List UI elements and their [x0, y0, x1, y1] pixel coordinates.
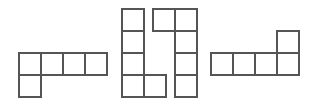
polyomino-cell [255, 53, 277, 75]
shape-4-right-J-pentomino [211, 31, 299, 75]
polyomino-cell [175, 31, 197, 53]
polyomino-cell [175, 75, 197, 97]
polyomino-cell [175, 53, 197, 75]
polyomino-cell [19, 75, 41, 97]
polyomino-cell [85, 53, 107, 75]
shape-1-left-L-pentomino [19, 53, 107, 97]
polyomino-cell [233, 53, 255, 75]
polyomino-cell [122, 31, 144, 53]
polyomino-canvas [0, 0, 318, 111]
polyomino-cell [63, 53, 85, 75]
polyomino-cell [277, 31, 299, 53]
polyomino-cell [19, 53, 41, 75]
polyomino-cell [41, 53, 63, 75]
polyomino-cell [175, 9, 197, 31]
polyomino-cell [122, 75, 144, 97]
polyomino-cell [211, 53, 233, 75]
polyomino-cell [277, 53, 299, 75]
polyomino-cell [122, 53, 144, 75]
polyomino-cell [122, 9, 144, 31]
polyomino-diagram [0, 0, 318, 111]
shapes-layer [19, 9, 299, 97]
polyomino-cell [144, 75, 166, 97]
polyomino-cell [153, 9, 175, 31]
